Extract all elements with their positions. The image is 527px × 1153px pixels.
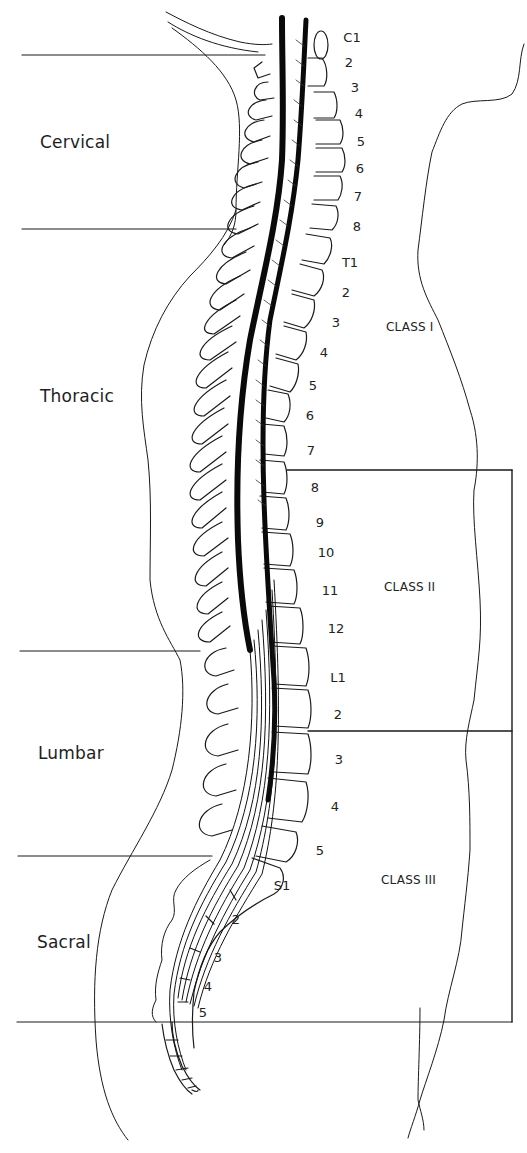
vertebral-bodies [162,31,345,1094]
spinal-cord [237,18,283,650]
vertebra-label-s2: 2 [232,912,240,927]
region-label-lumbar: Lumbar [38,743,104,763]
vertebra-label-c7: 7 [354,189,362,204]
vertebra-label-s3: 3 [214,950,222,965]
class-label-1: CLASS I [386,320,434,334]
vertebra-label-c1: C1 [343,30,360,45]
vertebra-label-l5: 5 [316,843,324,858]
vertebra-label-t4: 4 [320,345,328,360]
vertebra-label-c2: 2 [345,55,353,70]
vertebra-label-t7: 7 [307,443,315,458]
vertebra-label-t3: 3 [332,315,340,330]
vertebra-label-c3: 3 [351,80,359,95]
spine-anatomy-figure: Cervical Thoracic Lumbar Sacral C1 2 3 4… [0,0,527,1153]
vertebra-label-t2: 2 [342,285,350,300]
vertebra-label-l2: 2 [334,707,342,722]
vertebra-label-l1: L1 [330,670,346,685]
region-label-cervical: Cervical [40,132,110,152]
skull-base-outline [166,12,272,45]
vertebra-label-s5: 5 [199,1005,207,1020]
vertebra-label-l4: 4 [331,799,339,814]
region-label-thoracic: Thoracic [40,386,114,406]
class-label-3: CLASS III [381,873,436,887]
class-label-2: CLASS II [384,580,435,594]
vertebra-label-c4: 4 [355,106,363,121]
vertebra-label-t1: T1 [342,255,358,270]
region-label-sacral: Sacral [37,932,91,952]
vertebra-label-t12: 12 [328,621,345,636]
vertebra-label-t5: 5 [309,378,317,393]
vertebra-label-t6: 6 [306,408,314,423]
vertebra-label-s1: S1 [274,878,291,893]
vertebra-label-t8: 8 [311,480,319,495]
back-body-outline [95,210,236,1140]
spine-drawing [0,0,527,1153]
vertebra-label-s4: 4 [204,979,212,994]
vertebra-label-t9: 9 [316,515,324,530]
cauda-equina [170,580,279,1070]
vertebra-label-l3: 3 [335,752,343,767]
vertebra-label-c8: 8 [353,219,361,234]
vertebra-label-t11: 11 [322,583,339,598]
vertebra-label-t10: 10 [318,545,335,560]
vertebra-label-c5: 5 [357,134,365,149]
vertebra-label-c6: 6 [356,161,364,176]
